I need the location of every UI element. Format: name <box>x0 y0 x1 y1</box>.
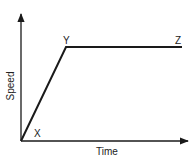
speed-line <box>21 47 182 141</box>
x-axis-label: Time <box>96 146 118 157</box>
point-y-label: Y <box>63 35 70 46</box>
point-z-label: Z <box>175 35 181 46</box>
point-x-label: X <box>34 128 41 139</box>
y-axis-label: Speed <box>5 72 16 101</box>
speed-time-graph: X Y Z Time Speed <box>0 0 195 162</box>
